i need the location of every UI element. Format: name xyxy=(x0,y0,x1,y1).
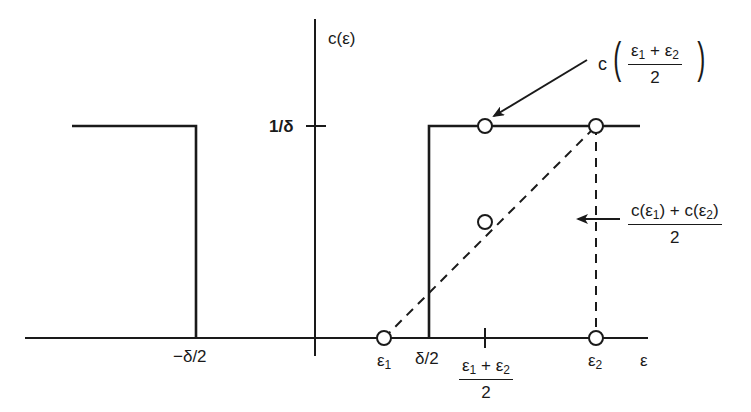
point-c-midpoint xyxy=(478,119,492,133)
left-step-function xyxy=(72,126,196,338)
y-axis-label: c(ε) xyxy=(328,30,355,47)
x-tick-label-half-delta: δ/2 xyxy=(415,350,439,367)
annotation-top-right-paren: ) xyxy=(697,36,705,80)
right-step-function xyxy=(429,126,640,338)
point-chord-midpoint xyxy=(478,215,492,229)
annotation-top-prefix: c xyxy=(598,55,607,73)
annotation-right-fraction: c(ε1) + c(ε2) 2 xyxy=(628,202,722,246)
y-tick-label: 1/δ xyxy=(269,118,294,135)
annotation-top-fraction: ε1 + ε2 2 xyxy=(628,42,682,86)
x-tick-label-eps2: ε2 xyxy=(588,352,602,371)
x-axis-label: ε xyxy=(640,352,648,369)
arrow-top-annotation xyxy=(494,60,587,116)
x-tick-label-midpoint: ε1 + ε2 2 xyxy=(459,357,513,401)
x-tick-label-eps1: ε1 xyxy=(377,352,391,371)
dashed-chord xyxy=(384,126,596,338)
point-eps2-axis xyxy=(589,331,603,345)
point-c-eps2 xyxy=(589,119,603,133)
annotation-top-left-paren: ( xyxy=(613,36,621,80)
x-tick-label-neg-half-delta: −δ/2 xyxy=(173,348,207,365)
point-c-eps1 xyxy=(377,331,391,345)
